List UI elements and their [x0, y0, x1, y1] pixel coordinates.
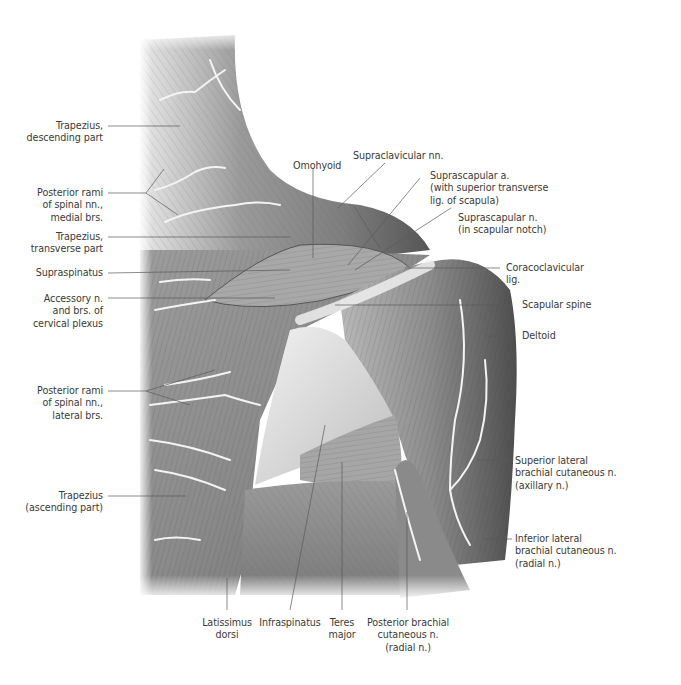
label-trapezius-ascending: Trapezius (ascending part) — [25, 490, 103, 515]
label-supraclavicular-nn: Supraclavicular nn. — [353, 150, 443, 162]
shoulder-illustration — [0, 0, 681, 685]
label-infraspinatus: Infraspinatus — [258, 617, 322, 629]
label-deltoid: Deltoid — [522, 330, 556, 342]
label-supraspinatus: Supraspinatus — [36, 267, 103, 279]
anatomy-figure: Trapezius, descending part Posterior ram… — [0, 0, 681, 685]
label-suprascapular-n: Suprascapular n. (in scapular notch) — [458, 212, 546, 237]
label-suprascapular-a: Suprascapular a. (with superior transver… — [430, 170, 548, 207]
label-scapular-spine: Scapular spine — [522, 299, 591, 311]
label-coracoclavicular-lig: Coracoclavicular lig. — [506, 262, 584, 287]
label-latissimus-dorsi: Latissimus dorsi — [197, 617, 257, 642]
label-accessory-n: Accessory n. and brs. of cervical plexus — [33, 293, 103, 330]
label-superior-lateral-brachial-cutaneous-n: Superior lateral brachial cutaneous n. (… — [515, 455, 617, 492]
label-posterior-rami-lateral: Posterior rami of spinal nn., lateral br… — [37, 385, 103, 422]
label-trapezius-transverse: Trapezius, transverse part — [31, 231, 103, 256]
label-teres-major: Teres major — [322, 617, 362, 642]
label-omohyoid: Omohyoid — [293, 160, 341, 172]
label-trapezius-descending: Trapezius, descending part — [27, 120, 103, 145]
label-posterior-rami-medial: Posterior rami of spinal nn., medial brs… — [37, 187, 103, 224]
label-inferior-lateral-brachial-cutaneous-n: Inferior lateral brachial cutaneous n. (… — [515, 533, 617, 570]
label-posterior-brachial-cutaneous-n: Posterior brachial cutaneous n. (radial … — [363, 617, 453, 654]
